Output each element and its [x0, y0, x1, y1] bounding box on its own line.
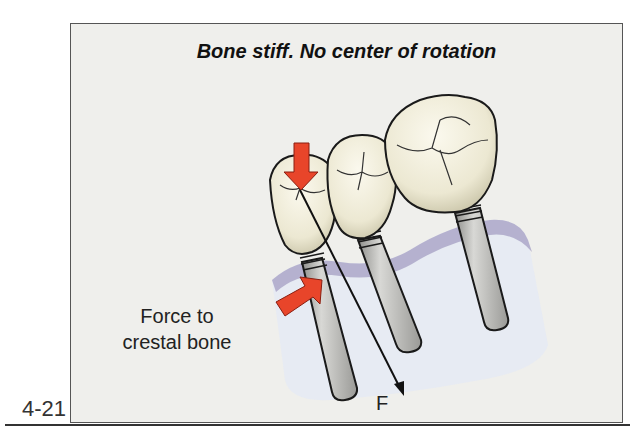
- crown-right: [385, 95, 497, 212]
- label-line-1: Force to: [117, 303, 237, 329]
- force-to-crestal-bone-label: Force to crestal bone: [117, 303, 237, 355]
- figure-number: 4-21: [22, 396, 66, 422]
- label-line-2: crestal bone: [117, 329, 237, 355]
- baseline-rule: [5, 424, 630, 426]
- implant-bridge-illustration: [0, 0, 636, 435]
- force-vector-label: F: [376, 392, 388, 415]
